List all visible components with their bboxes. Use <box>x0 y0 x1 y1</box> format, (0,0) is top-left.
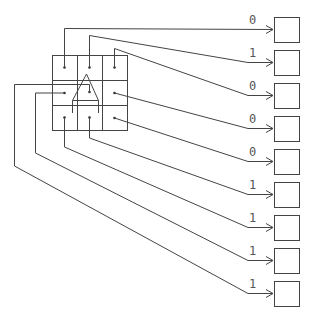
output-box-8 <box>275 249 300 274</box>
output-box-3 <box>275 84 300 109</box>
wire-8 <box>36 93 274 261</box>
output-boxes <box>275 18 300 307</box>
output-box-1 <box>275 18 300 43</box>
bit-label-9: 1 <box>249 277 256 291</box>
bit-label-3: 0 <box>249 79 256 93</box>
wire-6 <box>90 118 274 195</box>
output-box-4 <box>275 117 300 142</box>
cell-dots <box>63 66 116 119</box>
house-shape <box>73 74 99 113</box>
bit-label-7: 1 <box>249 211 256 225</box>
bit-label-6: 1 <box>249 178 256 192</box>
output-box-6 <box>275 183 300 208</box>
bit-labels: 0 1 0 0 0 1 1 1 1 <box>249 13 256 291</box>
wires <box>15 29 274 294</box>
binarization-diagram: 0 1 0 0 0 1 1 1 1 <box>0 0 312 317</box>
bit-label-1: 0 <box>249 13 256 27</box>
bit-label-8: 1 <box>249 244 256 258</box>
output-box-7 <box>275 216 300 241</box>
output-box-2 <box>275 51 300 76</box>
wire-9 <box>15 85 274 294</box>
wire-2 <box>90 36 274 68</box>
house-outline <box>73 74 99 113</box>
output-box-5 <box>275 150 300 175</box>
bit-label-2: 1 <box>249 46 256 60</box>
bit-label-5: 0 <box>249 145 256 159</box>
bit-label-4: 0 <box>249 112 256 126</box>
output-box-9 <box>275 282 300 307</box>
wire-7 <box>65 118 274 228</box>
